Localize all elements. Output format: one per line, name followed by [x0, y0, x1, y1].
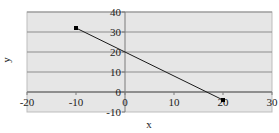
- x-axis-title: x: [146, 118, 152, 130]
- data-point-marker: [221, 98, 225, 102]
- y-tick-label: -10: [106, 106, 121, 118]
- y-tick-label: 10: [110, 66, 122, 78]
- plot-area: [27, 12, 272, 112]
- x-tick-label: 0: [122, 96, 128, 108]
- y-tick-label: 40: [110, 6, 122, 18]
- y-axis-title: y: [0, 57, 12, 63]
- x-tick-label: -10: [69, 96, 84, 108]
- x-tick-label: -20: [20, 96, 35, 108]
- data-point-marker: [74, 26, 78, 30]
- y-tick-label: 30: [110, 26, 122, 38]
- x-tick-label: 10: [169, 96, 181, 108]
- line-chart: -10010203040 -20-100102030 x y: [0, 0, 279, 133]
- x-tick-label: 30: [267, 96, 279, 108]
- y-tick-label: 0: [116, 86, 122, 98]
